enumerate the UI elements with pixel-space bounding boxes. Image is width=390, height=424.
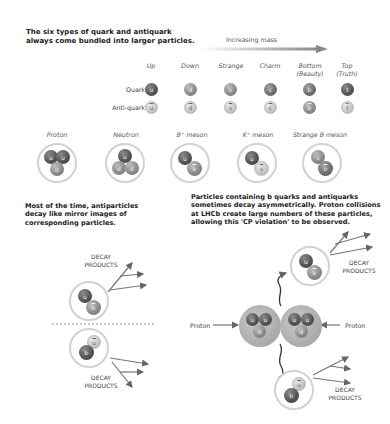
antiquark-b: b: [307, 265, 322, 280]
mirror-top-particle: u b: [69, 281, 109, 321]
quark-u: u: [259, 313, 272, 326]
proton-label-left: Proton: [190, 322, 210, 329]
quark-b: b: [284, 388, 299, 403]
colliding-proton-right: u u d: [280, 305, 322, 347]
quark-u: u: [301, 313, 314, 326]
mirror-bottom-particle: u b: [69, 328, 109, 368]
collision-product-top: u b: [290, 246, 330, 286]
collision-product-bottom: u b: [274, 370, 314, 410]
quark-d: d: [253, 325, 266, 338]
decay-products-label-bottom-left: DECAYPRODUCTS: [78, 374, 124, 389]
decay-products-label-top-left: DECAYPRODUCTS: [78, 253, 124, 268]
colliding-proton-left: u u d: [239, 305, 281, 347]
quark-u: u: [288, 313, 301, 326]
decay-products-label-bottom-right: DECAYPRODUCTS: [322, 386, 368, 401]
decay-arrows-layer: [0, 0, 390, 424]
quark-d: d: [295, 325, 308, 338]
antiquark-b: b: [86, 300, 101, 315]
decay-products-label-top-right: DECAYPRODUCTS: [336, 259, 382, 274]
quark-b: b: [79, 345, 94, 360]
quark-u: u: [246, 313, 259, 326]
proton-label-right: Proton: [345, 322, 365, 329]
